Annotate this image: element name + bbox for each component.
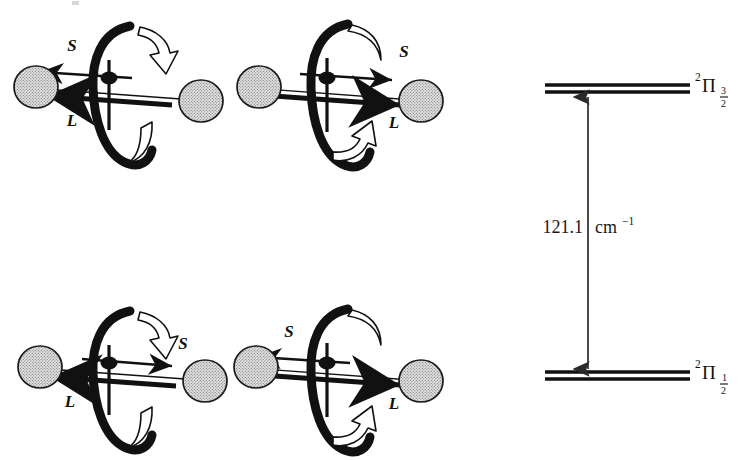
- sphere-left: [234, 346, 278, 388]
- energy-separation-unit: cm: [595, 217, 617, 237]
- sphere-right: [183, 360, 227, 402]
- sphere-right: [399, 80, 443, 122]
- vector-l-label: L: [64, 392, 75, 411]
- term-symbol-lower-letter: Π: [702, 362, 716, 383]
- panel-bottom-left: S L: [18, 311, 227, 450]
- sphere-right: [179, 80, 223, 122]
- molecular-spin-orbit-figure: S L S L: [0, 0, 747, 460]
- vector-l-label: L: [388, 394, 399, 413]
- vector-s-label: S: [67, 36, 76, 55]
- vector-s-label: S: [178, 334, 187, 353]
- energy-separation-value: 121.1: [543, 217, 584, 237]
- panel-top-left: S L: [14, 26, 223, 165]
- scan-artifact: [72, 1, 79, 5]
- energy-level-upper: [545, 85, 690, 92]
- sphere-left: [18, 346, 62, 388]
- term-symbol-lower-superscript: 2: [695, 358, 701, 370]
- term-symbol-upper-numerator: 3: [721, 85, 726, 96]
- term-symbol-upper-superscript: 2: [695, 71, 701, 83]
- rotation-arrow-top-icon: [138, 312, 178, 359]
- vector-s-label: S: [284, 322, 293, 341]
- sphere-left: [14, 66, 58, 108]
- rotation-arrow-top-icon: [348, 310, 381, 345]
- energy-level-diagram: 121.1 cm −1 2 Π 3 2 2 Π 1 2: [543, 71, 729, 396]
- vector-l-label: L: [66, 111, 77, 130]
- rotation-arrow-top-icon: [138, 27, 178, 74]
- term-symbol-upper-letter: Π: [702, 75, 716, 96]
- term-symbol-upper-denominator: 2: [721, 98, 726, 109]
- center-node: [319, 72, 336, 85]
- center-node: [101, 357, 118, 370]
- rotation-arrow-top-icon: [348, 25, 381, 60]
- vector-l-label: L: [388, 113, 399, 132]
- vector-l-arrow: [51, 377, 176, 386]
- term-symbol-lower-numerator: 1: [722, 372, 727, 383]
- term-symbol-lower: 2 Π 1 2: [695, 358, 728, 396]
- sphere-right: [399, 360, 443, 402]
- term-symbol-upper: 2 Π 3 2: [695, 71, 728, 109]
- term-symbol-lower-denominator: 2: [721, 385, 726, 396]
- panel-top-right: S L: [237, 24, 443, 167]
- vector-s-label: S: [399, 42, 408, 61]
- sphere-left: [237, 66, 281, 108]
- figure-root: S L S L: [0, 0, 747, 460]
- panel-bottom-right: S L: [234, 309, 443, 452]
- energy-level-lower: [545, 372, 690, 379]
- energy-separation-unit-exponent: −1: [622, 215, 634, 227]
